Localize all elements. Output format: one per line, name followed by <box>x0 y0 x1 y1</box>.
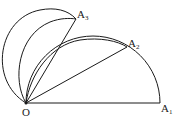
label-A3: A3 <box>77 8 89 22</box>
outer-left-arc <box>2 9 76 103</box>
label-O: O <box>22 106 30 118</box>
segment-OA2 <box>26 47 127 103</box>
point-O-dot <box>25 102 28 105</box>
segment-OA3 <box>26 19 76 103</box>
geometry-diagram: O A1 A2 A3 <box>0 0 173 118</box>
label-A1: A1 <box>161 102 173 116</box>
inner-arc <box>26 39 127 103</box>
label-A2: A2 <box>128 37 140 51</box>
